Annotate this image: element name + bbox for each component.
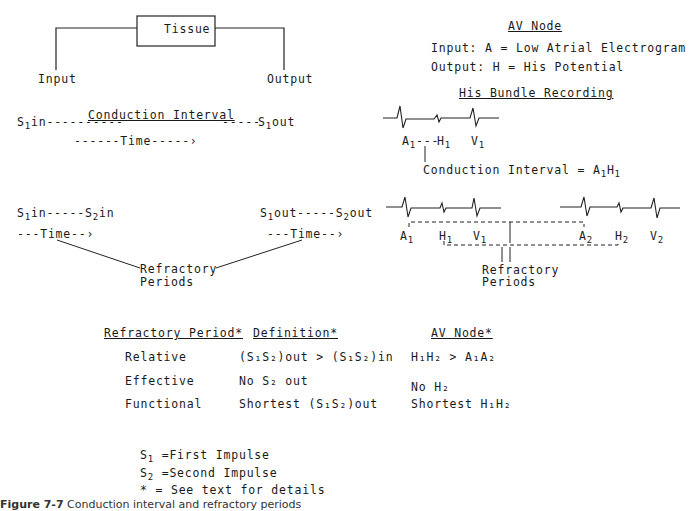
two-beat-v2: V2 [650, 231, 664, 243]
output-connector [215, 28, 284, 70]
table-header-av-node: AV Node* [431, 328, 493, 340]
output-label: Output [267, 74, 313, 86]
table-row-av-node: H₁H₂ > A₁A₂ [411, 352, 496, 364]
conduction-time-arrow: ------Time-----› [74, 136, 198, 148]
table-row-definition: Shortest (S₁S₂)out [239, 399, 378, 411]
input-connector [56, 28, 137, 70]
conduction-interval-formula: Conduction Interval = A1H1 [423, 165, 621, 177]
two-beat-h1: H1 [439, 231, 453, 243]
conduction-interval-label: Conduction Interval [88, 110, 235, 122]
two-beat-a2: A2 [579, 231, 593, 243]
figure-caption: Figure 7-7 Conduction interval and refra… [0, 498, 301, 511]
refractory-pointer-left [57, 240, 140, 268]
two-beat-h2: H2 [615, 231, 629, 243]
refractory-periods-label-2: Periods [140, 277, 194, 289]
legend-s1: S1 =First Impulse [140, 450, 270, 462]
refractory-pointer-right [216, 240, 302, 268]
table-row-period: Effective [125, 376, 195, 388]
legend-s2: S2 =Second Impulse [140, 468, 278, 480]
table-header-definition: Definition* [253, 328, 338, 340]
his-waveform-double [386, 197, 680, 218]
table-row-period: Relative [125, 352, 187, 364]
refractory-output-time: ---Time--› [267, 229, 344, 241]
conduction-dashes-right: ----- [222, 117, 261, 129]
table-row-period: Functional [125, 399, 202, 411]
two-beat-a1: A1 [400, 231, 414, 243]
table-row-av-node: Shortest H₁H₂ [411, 399, 511, 411]
av-node-title: AV Node [508, 21, 562, 33]
refractory-input-time: ---Time--› [17, 229, 94, 241]
refractory-input-pair: S1in-----S2in [17, 208, 114, 220]
input-label: Input [38, 74, 77, 86]
legend-asterisk: * = See text for details [140, 485, 325, 497]
refractory-output-pair: S1out-----S2out [260, 208, 373, 220]
table-row-av-node: No H₂ [411, 382, 450, 394]
av-node-input: Input: A = Low Atrial Electrogram [431, 43, 686, 55]
two-beat-v1: V1 [473, 231, 487, 243]
table-header-period: Refractory Period* [104, 328, 243, 340]
conduction-s1-out: S1out [258, 117, 295, 129]
av-node-output: Output: H = His Potential [431, 62, 624, 74]
his-refractory-label-2: Periods [482, 277, 536, 289]
tissue-label: Tissue [164, 24, 210, 36]
his-waveform-single [383, 106, 499, 128]
his-a1: A1--- [402, 136, 439, 148]
his-h1: H1 [437, 136, 451, 148]
table-row-definition: No S₂ out [239, 376, 309, 388]
his-v1: V1 [471, 136, 485, 148]
refractory-periods-label-1: Refractory [140, 264, 217, 276]
his-bundle-title: His Bundle Recording [459, 88, 613, 100]
table-row-definition: (S₁S₂)out > (S₁S₂)in [239, 352, 393, 364]
